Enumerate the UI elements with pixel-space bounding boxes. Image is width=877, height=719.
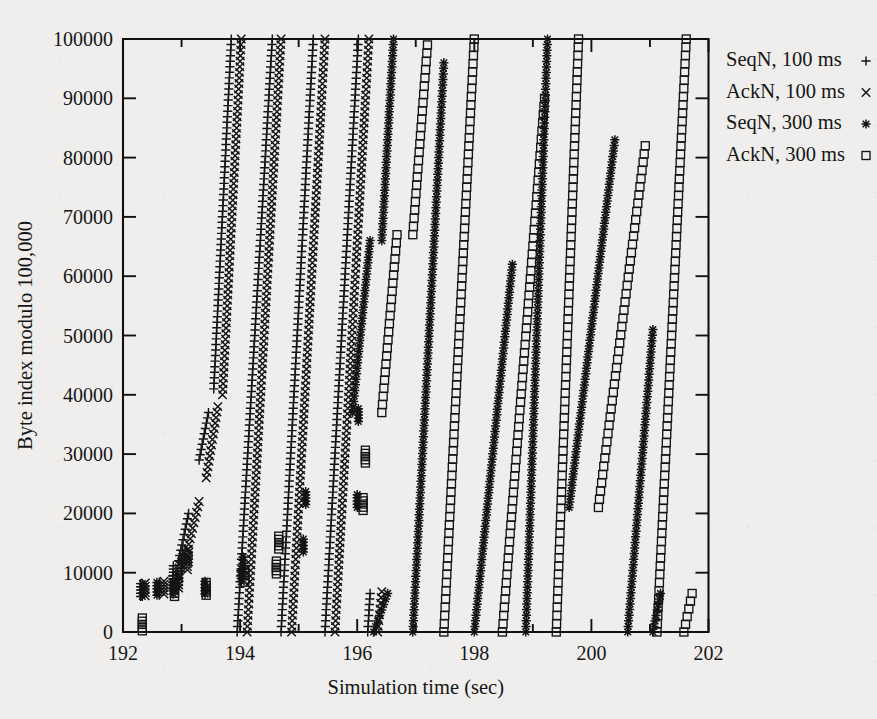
data-point-square (386, 312, 394, 320)
data-point-square (594, 503, 602, 511)
data-point-square (463, 175, 471, 183)
data-point-square (556, 529, 564, 537)
x-tick-label: 196 (342, 642, 372, 664)
data-series-layer (136, 34, 696, 636)
y-tick-label: 80000 (63, 147, 113, 169)
data-point-square (658, 529, 666, 537)
data-point-square (686, 597, 694, 605)
data-point-square (599, 471, 607, 479)
data-point-square (378, 401, 386, 409)
data-point-square (560, 422, 568, 430)
data-point-square (659, 504, 667, 512)
data-point-square (641, 142, 649, 150)
data-point-square (640, 150, 648, 158)
data-point-square (613, 364, 621, 372)
data-point-square (561, 406, 569, 414)
data-point-square (564, 315, 572, 323)
y-tick-label: 30000 (63, 443, 113, 465)
data-point-square (456, 315, 464, 323)
data-point-square (384, 336, 392, 344)
data-point-square (522, 324, 530, 332)
data-point-square (453, 381, 461, 389)
y-tick-label: 100000 (53, 28, 113, 50)
data-point-square (465, 142, 473, 150)
data-point-square (527, 267, 535, 275)
data-point-square (663, 422, 671, 430)
data-point-plus (195, 455, 204, 464)
data-point-square (556, 537, 564, 545)
data-point-square (664, 414, 672, 422)
data-point-square (500, 612, 508, 620)
data-point-asterisk (353, 490, 362, 499)
y-tick-label: 50000 (63, 325, 113, 347)
data-point-square (383, 344, 391, 352)
data-point-square (569, 183, 577, 191)
data-point-square (444, 554, 452, 562)
data-point-square (571, 142, 579, 150)
data-point-square (631, 224, 639, 232)
data-point-square (421, 74, 429, 82)
data-point-square (668, 332, 676, 340)
data-point-cross (195, 497, 203, 505)
data-point-square (567, 233, 575, 241)
data-point-square (563, 348, 571, 356)
legend-label-0: SeqN, 100 ms (726, 48, 842, 71)
data-point-square (600, 462, 608, 470)
data-point-square (566, 257, 574, 265)
data-point-asterisk (508, 260, 517, 269)
data-point-asterisk (299, 535, 308, 544)
data-point-square (667, 340, 675, 348)
data-point-square (680, 84, 688, 92)
data-point-square (568, 208, 576, 216)
data-point-cross (214, 402, 222, 410)
data-point-square (446, 504, 454, 512)
data-point-square (573, 68, 581, 76)
data-point-square (664, 406, 672, 414)
data-point-square (656, 562, 664, 570)
data-point-square (674, 200, 682, 208)
data-point-square (441, 603, 449, 611)
data-point-square (568, 200, 576, 208)
data-point-square (617, 331, 625, 339)
data-point-square (621, 298, 629, 306)
data-point-square (624, 273, 632, 281)
data-point-square (557, 513, 565, 521)
data-point-square (459, 257, 467, 265)
data-point-square (518, 382, 526, 390)
data-point-square (452, 389, 460, 397)
data-point-square (657, 554, 665, 562)
data-point-square (524, 300, 532, 308)
data-point-square (466, 117, 474, 125)
data-point-square (678, 117, 686, 125)
x-tick-label: 192 (108, 642, 138, 664)
data-point-square (568, 216, 576, 224)
data-point-square (461, 224, 469, 232)
data-point-square (557, 496, 565, 504)
data-point-square (422, 66, 430, 74)
x-tick-label: 200 (576, 642, 606, 664)
data-point-square (387, 303, 395, 311)
data-point-square (681, 51, 689, 59)
data-point-square (604, 429, 612, 437)
data-point-square (567, 224, 575, 232)
data-point-square (630, 232, 638, 240)
data-point-square (385, 320, 393, 328)
data-point-square (862, 152, 870, 160)
data-point-square (562, 356, 570, 364)
data-point-square (500, 603, 508, 611)
data-point-asterisk (365, 236, 374, 245)
data-point-square (557, 504, 565, 512)
data-point-square (602, 446, 610, 454)
data-point-square (409, 231, 417, 239)
data-point-square (558, 463, 566, 471)
data-point-square (681, 60, 689, 68)
data-point-square (449, 447, 457, 455)
x-tick-label: 198 (459, 642, 489, 664)
data-point-square (418, 107, 426, 115)
data-point-square (419, 99, 427, 107)
data-point-square (554, 570, 562, 578)
data-point-square (669, 307, 677, 315)
data-point-square (636, 183, 644, 191)
data-point-square (378, 409, 386, 417)
data-point-square (504, 562, 512, 570)
